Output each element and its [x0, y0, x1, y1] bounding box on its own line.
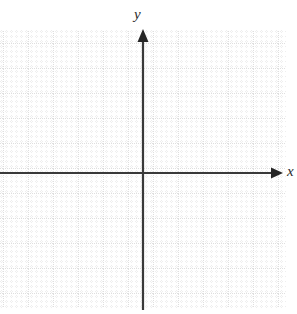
y-axis-label: y — [134, 7, 141, 22]
x-axis-label: x — [287, 164, 294, 179]
coordinate-plane-figure: y x — [0, 0, 297, 314]
graph-paper-grid — [0, 30, 286, 308]
